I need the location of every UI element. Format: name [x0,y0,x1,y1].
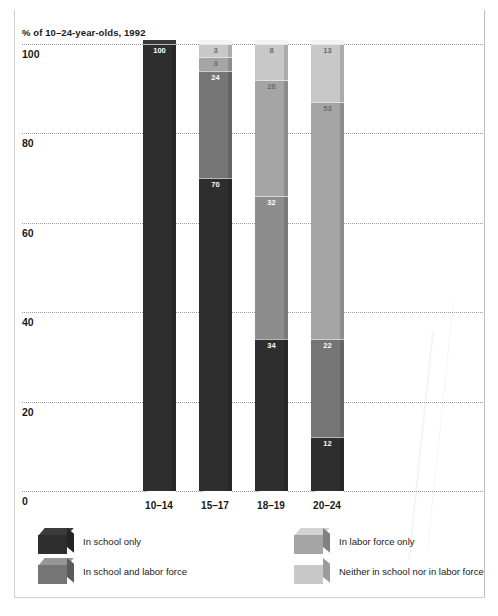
bar-bottom-bevel [259,491,288,495]
bar-segment[interactable]: 32 [255,196,288,339]
bar-side-face [172,45,176,491]
bar-side-face [284,340,288,491]
bar-segment-value: 100 [143,47,176,55]
gridline [22,133,483,134]
bar-segment[interactable]: 34 [255,339,288,491]
bar-segment[interactable]: 8 [255,44,288,80]
bar-segment-value: 34 [255,342,288,350]
bar-side-face [340,340,344,437]
legend-swatch-cube-icon [294,558,330,584]
bar-bottom-bevel [315,491,344,495]
bar-segment[interactable]: 13 [311,44,344,102]
plot-area: 100332470826323413532212 [22,44,483,491]
bar-column[interactable]: 8263234 [255,44,288,491]
bar-column[interactable]: 100 [143,44,176,491]
legend-item[interactable]: Neither in school nor in labor force [294,558,484,584]
bar-segment-value: 24 [199,74,232,82]
y-tick-label: 80 [22,138,34,149]
bar-side-face [228,179,232,491]
bar-segment-value: 70 [199,181,232,189]
x-tick-label: 18–19 [241,500,301,511]
x-tick-label: 15–17 [185,500,245,511]
bar-bottom-bevel [203,491,232,495]
bar-segment[interactable]: 22 [311,339,344,437]
y-tick-label: 40 [22,317,34,328]
x-tick-label: 20–24 [297,500,357,511]
bar-segment-value: 12 [311,440,344,448]
bar-segment-value: 3 [199,47,232,55]
bar-segment[interactable]: 3 [199,57,232,70]
bar-column[interactable]: 13532212 [311,44,344,491]
bar-segment[interactable]: 100 [143,44,176,491]
legend-swatch-cube-icon [294,528,330,554]
y-tick-label: 20 [22,407,34,418]
legend-item[interactable]: In school only [38,528,141,554]
gridline [22,402,483,403]
gridline [22,312,483,313]
bar-segment-value: 53 [311,105,344,113]
legend-label: Neither in school nor in labor force [339,566,484,577]
bar-segment-value: 26 [255,83,288,91]
legend-swatch-cube-icon [38,528,74,554]
legend-item[interactable]: In school and labor force [38,558,187,584]
gridline [22,491,483,492]
bar-column[interactable]: 332470 [199,44,232,491]
gridline [22,44,483,45]
bar-side-face [284,197,288,339]
bar-segment[interactable]: 24 [199,71,232,178]
x-tick-label: 10–14 [129,500,189,511]
page-border-left [14,10,15,598]
legend-label: In labor force only [339,536,415,547]
page-border-right [484,10,485,598]
page-border-bottom [14,597,485,598]
bar-side-face [228,72,232,178]
chart-page: % of 10–24-year-olds, 1992 1003324708263… [0,0,498,616]
bar-side-face [340,103,344,339]
bar-segment[interactable]: 26 [255,80,288,196]
bar-segment-value: 22 [311,342,344,350]
bar-segment[interactable]: 70 [199,178,232,491]
bar-segment[interactable]: 53 [311,102,344,339]
bar-segment-value: 32 [255,199,288,207]
legend-item[interactable]: In labor force only [294,528,415,554]
bar-segment-value: 3 [199,60,232,68]
chart-title: % of 10–24-year-olds, 1992 [22,27,146,38]
y-tick-label: 0 [22,496,28,507]
bar-side-face [284,81,288,196]
chart-legend: In school onlyIn labor force onlyIn scho… [22,528,484,588]
bar-segment[interactable]: 12 [311,437,344,491]
legend-label: In school only [83,536,141,547]
legend-swatch-cube-icon [38,558,74,584]
legend-label: In school and labor force [83,566,187,577]
y-tick-label: 60 [22,228,34,239]
bar-segment-value: 8 [255,47,288,55]
gridline [22,223,483,224]
bar-segment-value: 13 [311,47,344,55]
bar-bottom-bevel [147,491,176,495]
y-tick-label: 100 [22,49,40,60]
bar-segment[interactable]: 3 [199,44,232,57]
